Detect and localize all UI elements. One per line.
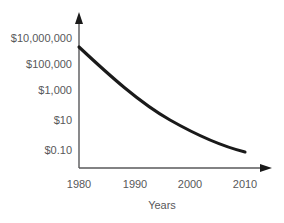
- y-tick-label-10: $10: [54, 114, 72, 126]
- cost-decline-curve: [79, 47, 245, 152]
- y-axis-arrow-icon: [75, 12, 83, 24]
- y-tick-label-10000000: $10,000,000: [11, 32, 72, 44]
- y-tick-label-0-10: $0.10: [44, 144, 72, 156]
- x-tick-label-1990: 1990: [123, 178, 147, 190]
- y-tick-label-1000: $1,000: [38, 84, 72, 96]
- x-tick-label-1980: 1980: [67, 178, 91, 190]
- x-tick-label-2010: 2010: [233, 178, 257, 190]
- x-axis-title: Years: [148, 199, 176, 211]
- x-tick-label-2000: 2000: [178, 178, 202, 190]
- y-tick-label-100000: $100,000: [26, 58, 72, 70]
- chart-container: $10,000,000 $100,000 $1,000 $10 $0.10 19…: [0, 0, 284, 223]
- x-axis-arrow-icon: [260, 164, 272, 172]
